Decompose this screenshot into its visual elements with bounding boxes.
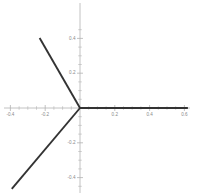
y-tick-label: 0.2 [69,70,76,75]
x-tick-label: -0.2 [41,112,49,117]
x-tick-label: -0.4 [6,112,14,117]
y-tick-label: -0.4 [68,175,76,180]
y-tick-label: -0.2 [68,140,76,145]
chart-figure: -0.4-0.20.20.40.6-0.4-0.20.20.4 [0,0,197,196]
y-tick-label: 0.4 [69,36,76,41]
x-tick-label: 0.4 [146,112,153,117]
x-tick-label: 0.6 [181,112,188,117]
data-series-group [12,38,188,189]
plot-canvas: -0.4-0.20.20.40.6-0.4-0.20.20.4 [0,0,197,196]
x-tick-label: 0.2 [112,112,119,117]
